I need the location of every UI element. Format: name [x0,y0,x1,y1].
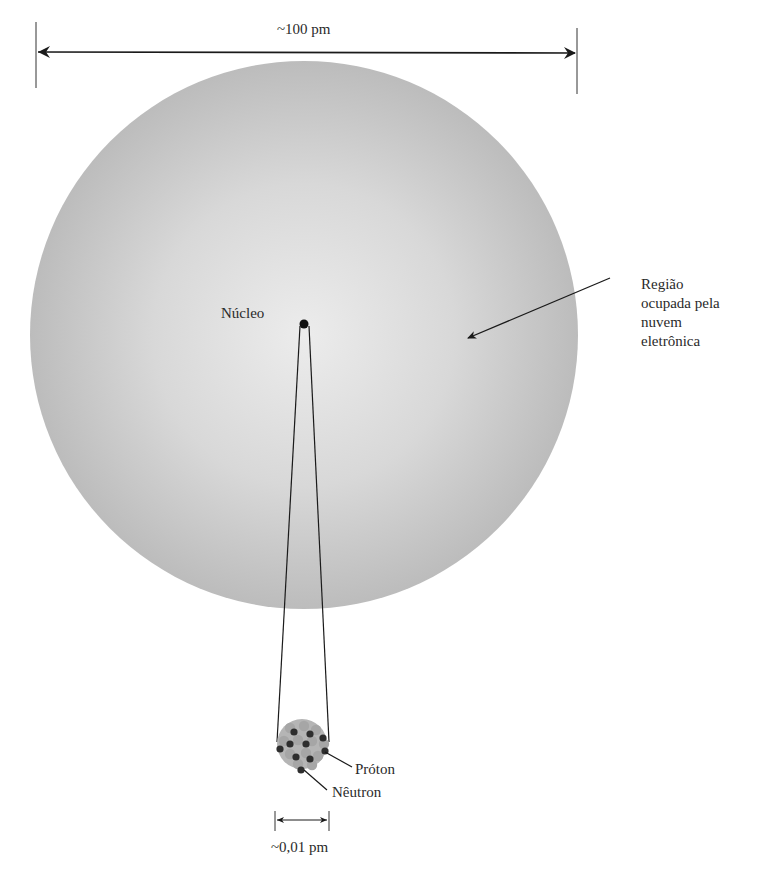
nucleus-label: Núcleo [221,304,264,323]
scale-line [38,52,575,53]
atom-scale-label: ~100 pm [277,20,331,39]
nucleus-scale-bar [275,811,329,831]
nucleus-dot [300,320,309,329]
proton-leader-line [325,752,352,767]
nucleus-scale-label: ~0,01 pm [271,838,328,857]
electron-cloud-label-line-1: Região [641,275,684,294]
neutron-leader-line [304,770,327,790]
electron-cloud [30,61,578,609]
neutron-label: Nêutron [332,783,381,802]
proton-label: Próton [355,760,395,779]
electron-cloud-label-line-4: eletrônica [641,332,700,351]
electron-cloud-label-line-3: nuvem [641,313,682,332]
atom-diagram-canvas [0,0,775,887]
electron-cloud-label-line-2: ocupada pela [641,294,720,313]
magnified-nucleus [276,719,329,774]
